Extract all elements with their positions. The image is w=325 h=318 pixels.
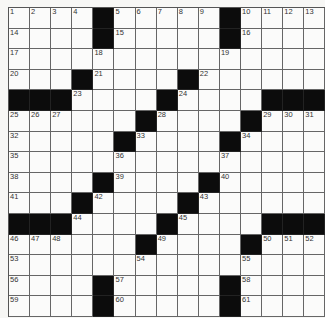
grid-cell[interactable] <box>178 296 199 317</box>
grid-cell[interactable] <box>136 296 157 317</box>
grid-cell[interactable] <box>30 29 51 50</box>
grid-cell[interactable]: 16 <box>241 29 262 50</box>
grid-cell[interactable] <box>304 193 325 214</box>
grid-cell[interactable]: 2 <box>30 8 51 29</box>
grid-cell[interactable] <box>220 235 241 256</box>
grid-cell[interactable] <box>72 276 93 297</box>
grid-cell[interactable]: 34 <box>241 132 262 153</box>
grid-cell[interactable]: 30 <box>283 111 304 132</box>
grid-cell[interactable] <box>51 173 72 194</box>
grid-cell[interactable] <box>136 29 157 50</box>
grid-cell[interactable] <box>72 255 93 276</box>
grid-cell[interactable] <box>51 132 72 153</box>
grid-cell[interactable]: 23 <box>72 90 93 111</box>
grid-cell[interactable]: 19 <box>220 49 241 70</box>
grid-cell[interactable]: 7 <box>157 8 178 29</box>
grid-cell[interactable] <box>51 193 72 214</box>
grid-cell[interactable] <box>262 152 283 173</box>
grid-cell[interactable] <box>283 29 304 50</box>
grid-cell[interactable] <box>241 152 262 173</box>
grid-cell[interactable] <box>114 49 135 70</box>
grid-cell[interactable] <box>304 49 325 70</box>
grid-cell[interactable] <box>220 255 241 276</box>
grid-cell[interactable] <box>157 255 178 276</box>
grid-cell[interactable] <box>72 29 93 50</box>
grid-cell[interactable]: 12 <box>283 8 304 29</box>
grid-cell[interactable]: 52 <box>304 235 325 256</box>
grid-cell[interactable] <box>30 276 51 297</box>
grid-cell[interactable] <box>114 255 135 276</box>
grid-cell[interactable] <box>241 49 262 70</box>
grid-cell[interactable]: 11 <box>262 8 283 29</box>
grid-cell[interactable]: 5 <box>114 8 135 29</box>
grid-cell[interactable] <box>199 296 220 317</box>
grid-cell[interactable]: 8 <box>178 8 199 29</box>
grid-cell[interactable] <box>178 29 199 50</box>
grid-cell[interactable] <box>157 152 178 173</box>
grid-cell[interactable]: 22 <box>199 70 220 91</box>
grid-cell[interactable] <box>136 214 157 235</box>
grid-cell[interactable] <box>199 152 220 173</box>
grid-cell[interactable] <box>51 276 72 297</box>
grid-cell[interactable]: 28 <box>157 111 178 132</box>
grid-cell[interactable] <box>157 276 178 297</box>
grid-cell[interactable]: 26 <box>30 111 51 132</box>
grid-cell[interactable]: 38 <box>9 173 30 194</box>
grid-cell[interactable] <box>30 132 51 153</box>
grid-cell[interactable] <box>178 276 199 297</box>
grid-cell[interactable] <box>114 90 135 111</box>
grid-cell[interactable] <box>93 90 114 111</box>
grid-cell[interactable] <box>51 296 72 317</box>
grid-cell[interactable] <box>283 152 304 173</box>
grid-cell[interactable]: 21 <box>93 70 114 91</box>
grid-cell[interactable] <box>136 276 157 297</box>
grid-cell[interactable] <box>30 173 51 194</box>
grid-cell[interactable]: 50 <box>262 235 283 256</box>
grid-cell[interactable]: 58 <box>241 276 262 297</box>
grid-cell[interactable] <box>72 132 93 153</box>
grid-cell[interactable] <box>72 152 93 173</box>
grid-cell[interactable] <box>136 70 157 91</box>
grid-cell[interactable]: 61 <box>241 296 262 317</box>
grid-cell[interactable] <box>199 255 220 276</box>
grid-cell[interactable] <box>178 111 199 132</box>
grid-cell[interactable] <box>72 49 93 70</box>
grid-cell[interactable] <box>114 214 135 235</box>
grid-cell[interactable] <box>30 70 51 91</box>
grid-cell[interactable]: 3 <box>51 8 72 29</box>
grid-cell[interactable] <box>72 296 93 317</box>
grid-cell[interactable] <box>93 111 114 132</box>
grid-cell[interactable] <box>262 193 283 214</box>
grid-cell[interactable]: 32 <box>9 132 30 153</box>
grid-cell[interactable]: 44 <box>72 214 93 235</box>
grid-cell[interactable] <box>136 90 157 111</box>
grid-cell[interactable] <box>93 255 114 276</box>
grid-cell[interactable] <box>283 193 304 214</box>
grid-cell[interactable] <box>262 70 283 91</box>
grid-cell[interactable] <box>51 29 72 50</box>
grid-cell[interactable] <box>262 255 283 276</box>
grid-cell[interactable] <box>304 255 325 276</box>
grid-cell[interactable]: 42 <box>93 193 114 214</box>
grid-cell[interactable] <box>304 70 325 91</box>
grid-cell[interactable] <box>30 49 51 70</box>
grid-cell[interactable]: 31 <box>304 111 325 132</box>
grid-cell[interactable] <box>283 173 304 194</box>
grid-cell[interactable] <box>283 49 304 70</box>
grid-cell[interactable]: 25 <box>9 111 30 132</box>
grid-cell[interactable] <box>220 214 241 235</box>
grid-cell[interactable] <box>283 70 304 91</box>
grid-cell[interactable] <box>178 173 199 194</box>
grid-cell[interactable]: 40 <box>220 173 241 194</box>
grid-cell[interactable]: 14 <box>9 29 30 50</box>
grid-cell[interactable] <box>283 255 304 276</box>
grid-cell[interactable] <box>262 296 283 317</box>
grid-cell[interactable] <box>72 111 93 132</box>
grid-cell[interactable] <box>51 70 72 91</box>
grid-cell[interactable] <box>157 173 178 194</box>
grid-cell[interactable] <box>114 111 135 132</box>
grid-cell[interactable]: 13 <box>304 8 325 29</box>
grid-cell[interactable] <box>178 132 199 153</box>
grid-cell[interactable] <box>241 214 262 235</box>
grid-cell[interactable] <box>262 29 283 50</box>
